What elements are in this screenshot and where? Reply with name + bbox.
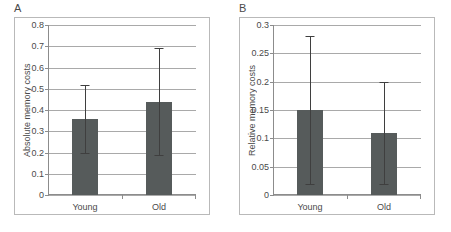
plot-area-b: 00.050.10.150.20.250.3YoungOld xyxy=(273,25,421,195)
gridline xyxy=(273,82,421,83)
figure: A Absolute memory costs 00.10.20.30.40.5… xyxy=(0,0,451,232)
y-tick-label: 0.8 xyxy=(31,20,44,30)
y-tick-label: 0.2 xyxy=(31,148,44,158)
error-cap-lower xyxy=(81,153,90,154)
y-tick-mark xyxy=(270,195,274,196)
x-tick-label-old: Old xyxy=(152,202,166,212)
y-tick-label: 0.3 xyxy=(256,20,269,30)
gridline xyxy=(48,153,196,154)
gridline xyxy=(48,131,196,132)
gridline xyxy=(48,174,196,175)
y-tick-label: 0.2 xyxy=(256,77,269,87)
gridline xyxy=(273,25,421,26)
y-tick-label: 0.4 xyxy=(31,105,44,115)
y-axis-line xyxy=(273,25,274,195)
x-tick-label-young: Young xyxy=(72,202,97,212)
y-tick-label: 0.1 xyxy=(256,133,269,143)
error-cap-lower xyxy=(306,184,315,185)
error-bar-old xyxy=(159,48,160,154)
y-tick-label: 0.5 xyxy=(31,84,44,94)
error-bar-young xyxy=(310,36,311,183)
y-tick-label: 0 xyxy=(39,190,44,200)
panel-label-a: A xyxy=(14,2,22,14)
x-tick-mark xyxy=(195,195,196,199)
error-cap-upper xyxy=(81,85,90,86)
gridline xyxy=(48,89,196,90)
gridline xyxy=(48,46,196,47)
y-tick-label: 0.3 xyxy=(31,126,44,136)
y-tick-mark xyxy=(45,195,49,196)
gridline xyxy=(273,53,421,54)
y-tick-label: 0.6 xyxy=(31,63,44,73)
gridline xyxy=(273,110,421,111)
y-tick-label: 0.05 xyxy=(251,162,269,172)
gridline xyxy=(273,167,421,168)
x-tick-mark xyxy=(122,195,123,199)
error-cap-upper xyxy=(380,82,389,83)
y-tick-label: 0.25 xyxy=(251,48,269,58)
gridline xyxy=(48,110,196,111)
y-tick-label: 0.1 xyxy=(31,169,44,179)
error-cap-upper xyxy=(306,36,315,37)
error-cap-lower xyxy=(155,155,164,156)
x-tick-label-young: Young xyxy=(297,202,322,212)
x-tick-mark xyxy=(347,195,348,199)
y-tick-label: 0.7 xyxy=(31,41,44,51)
panel-b: B Relative memory costs 00.050.10.150.20… xyxy=(225,0,451,232)
gridline xyxy=(273,138,421,139)
gridline xyxy=(48,25,196,26)
gridline xyxy=(48,68,196,69)
error-cap-lower xyxy=(380,184,389,185)
plot-area-a: 00.10.20.30.40.50.60.70.8YoungOld xyxy=(48,25,196,195)
y-axis-line xyxy=(48,25,49,195)
y-tick-label: 0.15 xyxy=(251,105,269,115)
error-bar-old xyxy=(384,82,385,184)
panel-a: A Absolute memory costs 00.10.20.30.40.5… xyxy=(0,0,226,232)
error-cap-upper xyxy=(155,48,164,49)
error-bar-young xyxy=(85,85,86,153)
y-tick-label: 0 xyxy=(264,190,269,200)
panel-label-b: B xyxy=(239,2,247,14)
x-tick-mark xyxy=(420,195,421,199)
x-tick-label-old: Old xyxy=(377,202,391,212)
